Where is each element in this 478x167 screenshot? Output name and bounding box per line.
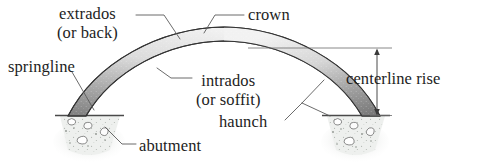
leader-intrados: [157, 68, 192, 78]
leader-haunch-lower: [302, 103, 330, 116]
leader-haunch-upper: [285, 80, 324, 120]
label-haunch: haunch: [219, 113, 267, 131]
label-extrados-line1: extrados: [57, 5, 118, 24]
label-crown: crown: [248, 6, 290, 24]
label-intrados-line2: (or soffit): [196, 91, 261, 110]
rise-arrow-top: [374, 49, 380, 56]
label-extrados-line2: (or back): [57, 24, 118, 43]
label-centerline-rise: centerline rise: [346, 70, 441, 88]
abutment-right: [321, 116, 390, 163]
label-springline: springline: [8, 58, 75, 76]
label-extrados: extrados (or back): [57, 5, 118, 42]
label-intrados-line1: intrados: [196, 72, 261, 91]
arch-diagram: extrados (or back) crown springline intr…: [0, 0, 478, 167]
label-intrados: intrados (or soffit): [196, 72, 261, 109]
abutment-left: [53, 116, 125, 163]
label-abutment: abutment: [139, 137, 201, 155]
